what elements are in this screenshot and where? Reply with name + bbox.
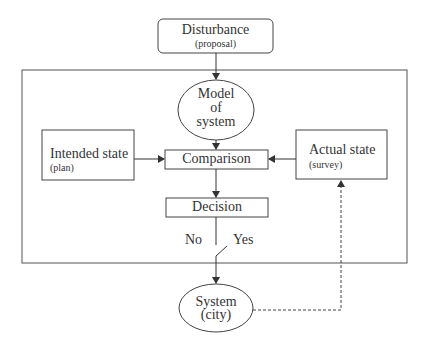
model-line1: Model — [178, 87, 254, 101]
model-line3: system — [178, 115, 254, 129]
switch-yes-label: Yes — [233, 233, 253, 247]
comparison-title: Comparison — [165, 152, 268, 166]
intended-title: Intended state — [50, 147, 128, 161]
switch-blade — [216, 246, 227, 256]
actual-subtitle: (survey) — [309, 160, 342, 170]
switch-no-label: No — [185, 233, 202, 247]
intended-subtitle: (plan) — [50, 163, 74, 173]
disturbance-title: Disturbance — [158, 23, 273, 37]
model-line2: of — [178, 101, 254, 115]
decision-title: Decision — [166, 200, 268, 214]
system-line2: (city) — [179, 308, 253, 322]
disturbance-subtitle: (proposal) — [158, 39, 273, 49]
actual-title: Actual state — [309, 143, 375, 157]
